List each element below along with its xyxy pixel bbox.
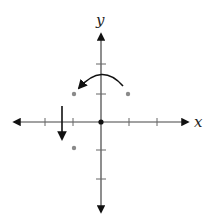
y-axis-label: y [95, 11, 105, 29]
coordinate-plane-diagram: y x [0, 0, 212, 221]
x-axis-label: x [194, 113, 203, 131]
point-neg1-neg1 [72, 146, 76, 150]
origin-point [98, 119, 103, 124]
point-neg1-pos1 [72, 92, 76, 96]
point-pos1-pos1 [126, 92, 130, 96]
